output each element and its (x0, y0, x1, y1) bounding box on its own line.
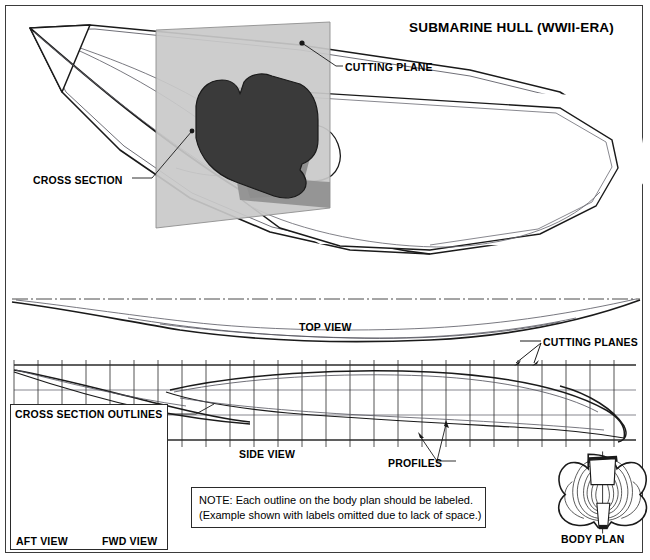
bp-keel-dark (599, 525, 608, 529)
bp-sail (590, 459, 616, 485)
perspective-view (30, 22, 648, 254)
note-line-1: NOTE: Each outline on the body plan shou… (199, 493, 485, 508)
label-profiles: PROFILES (388, 457, 442, 469)
label-side-view: SIDE VIEW (239, 448, 295, 460)
label-body-plan: BODY PLAN (561, 533, 624, 545)
label-cutting-plane: CUTTING PLANE (345, 61, 433, 73)
bp-keel-fin (597, 503, 610, 527)
note-line-2: (Example shown with labels omitted due t… (199, 508, 485, 523)
note-box: NOTE: Each outline on the body plan shou… (191, 487, 486, 528)
page-title: SUBMARINE HULL (WWII-ERA) (409, 20, 614, 35)
side-hull-profile-inner (174, 375, 598, 412)
label-cross-section: CROSS SECTION (33, 174, 123, 186)
cross-section-outlines-box (10, 404, 168, 550)
cutting-planes-leaders (516, 341, 541, 363)
label-cross-section-outlines: CROSS SECTION OUTLINES (15, 408, 162, 420)
label-cutting-planes: CUTTING PLANES (543, 336, 638, 348)
side-hull-profile (170, 371, 624, 438)
side-hull-lower-curve-2 (180, 398, 604, 430)
label-aft-view: AFT VIEW (16, 535, 68, 547)
profiles-leaders (420, 424, 456, 461)
cso-box-leader-line (168, 404, 214, 414)
profiles-arrowhead-1 (418, 432, 424, 438)
drawing-sheet: SUBMARINE HULL (WWII-ERA) CUTTING PLANE … (0, 0, 650, 560)
label-top-view: TOP VIEW (299, 321, 352, 333)
label-fwd-view: FWD VIEW (102, 535, 157, 547)
body-plan-figure (559, 451, 647, 533)
